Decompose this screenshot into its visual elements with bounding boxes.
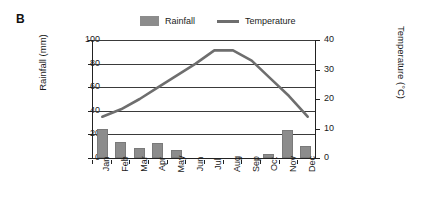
rainfall-bar [152,143,163,158]
bar-slot [297,40,316,158]
x-axis-label-slot: Jun [185,160,204,198]
y-axis-right-tick-label: 0 [324,152,364,162]
bar-slot [149,40,168,158]
x-axis-label-slot: May [167,160,186,198]
y-axis-right-tick-label: 30 [324,64,364,74]
legend-label-temperature: Temperature [245,16,296,26]
bar-slot [186,40,205,158]
x-axis-tick-mark [167,160,168,164]
legend-label-rainfall: Rainfall [165,16,195,26]
x-axis-tick-label: Dec [307,156,317,172]
bar-slot [260,40,279,158]
x-axis-tick-mark [148,160,149,164]
rainfall-bar [97,129,108,159]
x-axis-tick-mark [297,160,298,164]
y-axis-right-tick-mark [316,99,320,100]
x-axis-label-slot: Dec [297,160,316,198]
y-axis-right-tick-mark [316,70,320,71]
x-axis-tick-mark [260,160,261,164]
legend-item-rainfall: Rainfall [140,16,195,26]
x-axis-tick-mark [223,160,224,164]
x-axis-tick-mark [241,160,242,164]
y-axis-left-title: Rainfall (mm) [37,3,48,123]
bar-slot [223,40,242,158]
y-axis-right-tick-mark [316,129,320,130]
x-axis-label-slot: Nov [279,160,298,198]
climate-chart-figure: B Rainfall Temperature Rainfall (mm) Tem… [0,0,421,199]
x-axis-tick-mark [111,160,112,164]
x-axis-label-slot: Aug [223,160,242,198]
x-axis-label-slot: Jul [204,160,223,198]
y-axis-right-tick-mark [316,40,320,41]
y-axis-right-tick-label: 40 [324,34,364,44]
x-axis-label-slot: Oct [260,160,279,198]
x-axis-label-slot: Sep [241,160,260,198]
rainfall-bars [93,40,315,158]
bar-slot [112,40,131,158]
x-axis-tick-mark [92,160,93,164]
rainfall-swatch-icon [140,16,159,26]
bar-slot [278,40,297,158]
x-axis-label-slot: Apr [148,160,167,198]
chart-legend: Rainfall Temperature [140,16,296,26]
panel-letter: B [16,12,25,26]
x-axis-label-slot: Jan [92,160,111,198]
rainfall-bar [282,130,293,158]
bar-slot [241,40,260,158]
y-axis-right-tick-label: 20 [324,93,364,103]
bar-slot [204,40,223,158]
temperature-line-icon [217,20,239,23]
y-axis-right-tick-label: 10 [324,123,364,133]
x-axis-tick-mark [204,160,205,164]
legend-item-temperature: Temperature [217,16,296,26]
x-axis-tick-mark [129,160,130,164]
x-axis-tick-mark [279,160,280,164]
bar-slot [130,40,149,158]
x-axis-label-slot: Feb [111,160,130,198]
y-axis-right-title: Temperature (°C) [396,3,407,123]
bar-slot [167,40,186,158]
x-axis-tick-mark [185,160,186,164]
x-axis-label-slot: Mar [129,160,148,198]
plot-area [92,40,316,158]
x-axis-labels: JanFebMarAprMayJunJulAugSepOctNovDec [92,160,316,198]
bar-slot [93,40,112,158]
